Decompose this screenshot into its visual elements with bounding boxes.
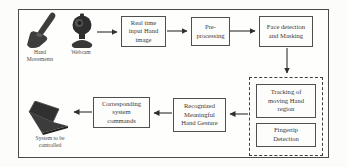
webcam-icon — [70, 13, 94, 50]
hand-icon — [24, 11, 58, 49]
node-real-time-input: Real time input Hand image — [121, 16, 166, 47]
node-tracking: Tracking of moving Hand region — [256, 84, 316, 118]
system-figure — [27, 101, 70, 139]
hand-movements-figure — [24, 11, 58, 53]
node-face-detection: Face detection and Masking — [259, 16, 313, 47]
node-preprocessing: Pre- processing — [191, 17, 230, 46]
node-system-commands: Corresponding system commands — [93, 97, 150, 128]
webcam-figure — [70, 13, 94, 54]
flowchart-canvas: Hand Movements Webcam Real time input Ha… — [0, 0, 348, 167]
system-caption: System to be controlled — [27, 135, 73, 149]
node-recognized-gesture: Recognized Meaningful Hand Gesture — [173, 98, 226, 132]
laptop-icon — [27, 101, 70, 135]
webcam-caption: Webcam — [62, 49, 100, 56]
hand-caption: Hand Movements — [18, 49, 62, 63]
node-fingertip: Fingertip Detection — [256, 123, 316, 147]
